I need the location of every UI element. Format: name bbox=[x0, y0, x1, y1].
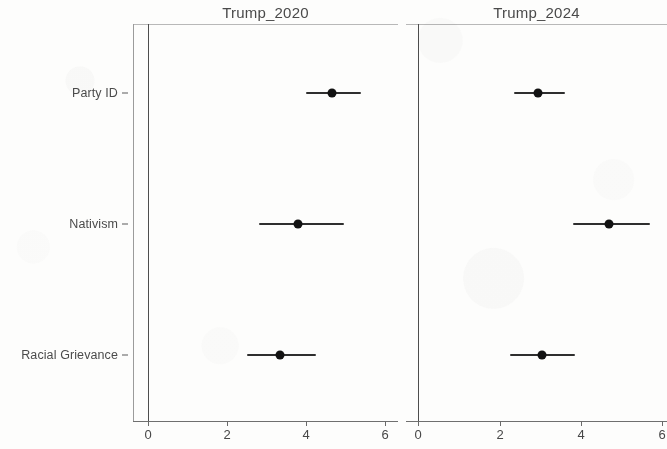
x-axis-tick-label: 6 bbox=[658, 427, 665, 442]
x-axis-tick-label: 0 bbox=[414, 427, 421, 442]
x-axis-tick bbox=[662, 421, 663, 426]
x-axis-tick-label: 2 bbox=[496, 427, 503, 442]
estimate-point bbox=[538, 351, 547, 360]
x-axis-tick bbox=[418, 421, 419, 426]
x-axis-tick-label: 4 bbox=[577, 427, 584, 442]
panel-trump-2024 bbox=[0, 0, 667, 449]
coefficient-plot-figure: Party ID Nativism Racial Grievance Trump… bbox=[0, 0, 667, 449]
estimate-point bbox=[534, 89, 543, 98]
estimate-point bbox=[605, 220, 614, 229]
x-axis-tick bbox=[581, 421, 582, 426]
x-axis-tick bbox=[500, 421, 501, 426]
